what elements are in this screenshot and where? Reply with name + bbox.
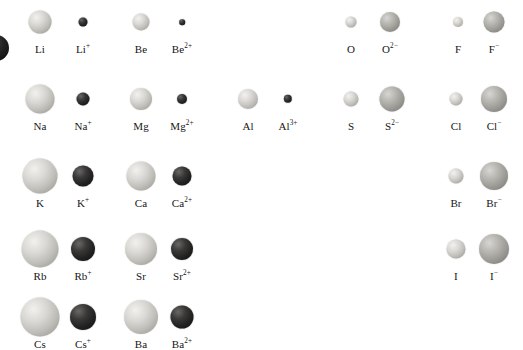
label-Be-2plus: Be2+: [172, 44, 192, 55]
label-Al: Al: [242, 121, 253, 132]
sphere-Be: [133, 14, 150, 31]
label-F: F: [455, 44, 461, 55]
sphere-Br-minus: [480, 162, 508, 190]
charge-superscript: −: [498, 196, 502, 204]
sphere-S: [344, 92, 359, 107]
charge-superscript: 3+: [290, 119, 298, 127]
label-Ba-2plus: Ba2+: [172, 339, 192, 350]
sphere-Sr: [125, 233, 157, 265]
sphere-Ba-2plus: [171, 306, 194, 329]
sphere-Rb: [22, 231, 59, 268]
label-Br: Br: [450, 198, 461, 209]
atomic-ionic-radii-diagram: LiLi+BeBe2+OO2−FF−NaNa+MgMg2+AlAl3+SS2−C…: [0, 0, 523, 350]
sphere-K-plus: [73, 166, 94, 187]
sphere-I: [447, 240, 466, 259]
charge-superscript: 2+: [184, 196, 192, 204]
charge-superscript: −: [495, 42, 499, 50]
label-Cs-plus: Cs+: [75, 339, 91, 350]
sphere-K: [23, 159, 58, 194]
sphere-Br: [449, 169, 464, 184]
charge-superscript: 2+: [184, 42, 192, 50]
label-Cl-minus: Cl−: [487, 121, 502, 132]
label-Ca-2plus: Ca2+: [172, 198, 192, 209]
charge-superscript: +: [87, 119, 91, 127]
label-O-2minus: O2−: [382, 44, 398, 55]
label-Ca: Ca: [135, 198, 147, 209]
label-Cl: Cl: [451, 121, 462, 132]
label-I: I: [454, 271, 458, 282]
clipped-sphere-glyph: [0, 35, 9, 61]
sphere-Ba: [124, 300, 158, 334]
label-O: O: [347, 44, 355, 55]
sphere-Li-plus: [79, 18, 88, 27]
sphere-F: [453, 17, 463, 27]
label-F-minus: F−: [489, 44, 499, 55]
label-Cs: Cs: [34, 339, 46, 350]
label-K-plus: K+: [77, 198, 89, 209]
sphere-F-minus: [484, 12, 505, 33]
charge-superscript: 2−: [390, 42, 398, 50]
label-Li-plus: Li+: [76, 44, 90, 55]
label-Rb: Rb: [33, 271, 46, 282]
sphere-O: [346, 17, 357, 28]
charge-superscript: +: [86, 42, 90, 50]
sphere-I-minus: [479, 234, 509, 264]
label-Mg: Mg: [133, 121, 148, 132]
sphere-Mg: [130, 88, 152, 110]
label-Mg-2plus: Mg2+: [170, 121, 193, 132]
sphere-Cs-plus: [70, 304, 96, 330]
label-Br-minus: Br−: [486, 198, 501, 209]
charge-superscript: +: [85, 196, 89, 204]
sphere-O-2minus: [380, 12, 400, 32]
label-Sr-2plus: Sr2+: [173, 271, 191, 282]
label-Li: Li: [35, 44, 45, 55]
sphere-Cl-minus: [481, 86, 507, 112]
charge-superscript: −: [494, 269, 498, 277]
charge-superscript: 2+: [183, 269, 191, 277]
sphere-Sr-2plus: [171, 238, 193, 260]
sphere-Mg-2plus: [177, 94, 187, 104]
sphere-Ca: [127, 162, 156, 191]
sphere-Al: [238, 89, 258, 109]
charge-superscript: −: [497, 119, 501, 127]
sphere-Cs: [21, 298, 60, 337]
sphere-Rb-plus: [71, 237, 95, 261]
label-S: S: [348, 121, 354, 132]
label-Sr: Sr: [136, 271, 146, 282]
charge-superscript: 2−: [391, 119, 399, 127]
sphere-Be-2plus: [179, 19, 185, 25]
sphere-Al-3plus: [284, 95, 292, 103]
charge-superscript: +: [87, 337, 91, 345]
label-Rb-plus: Rb+: [74, 271, 91, 282]
label-Na-plus: Na+: [74, 121, 91, 132]
charge-superscript: +: [87, 269, 91, 277]
sphere-Na-plus: [77, 93, 90, 106]
sphere-S-2minus: [380, 87, 405, 112]
charge-superscript: 2+: [186, 119, 194, 127]
label-Be: Be: [135, 44, 147, 55]
label-K: K: [36, 198, 44, 209]
sphere-Ca-2plus: [173, 167, 192, 186]
label-S-2minus: S2−: [385, 121, 399, 132]
label-Na: Na: [33, 121, 46, 132]
sphere-Na: [26, 85, 55, 114]
label-Ba: Ba: [135, 339, 147, 350]
charge-superscript: 2+: [184, 337, 192, 345]
label-I-minus: I−: [490, 271, 498, 282]
sphere-Li: [29, 11, 52, 34]
sphere-Cl: [450, 93, 463, 106]
label-Al-3plus: Al3+: [278, 121, 297, 132]
